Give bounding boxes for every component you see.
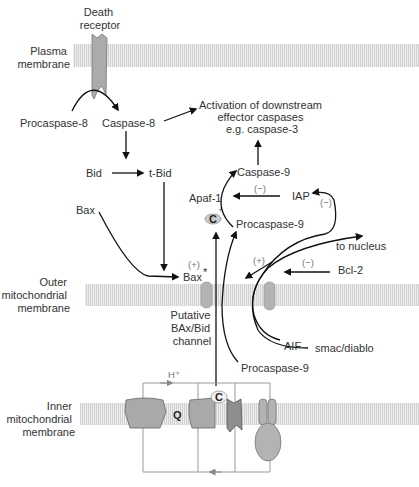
smac-to-iap-arrow: [252, 192, 335, 348]
caspase9-label: Caspase-9: [237, 166, 290, 178]
activation-label: Activation of downstream effector caspas…: [199, 99, 325, 135]
complex-iii: [189, 398, 215, 428]
procaspase8-label: Procaspase-8: [20, 117, 88, 129]
smac-diablo-label: smac/diablo: [315, 342, 374, 354]
tbid-label: t-Bid: [149, 167, 172, 179]
caspase8-to-activation-arrow: [164, 109, 196, 121]
channel-label: Putative BAx/Bid channel: [171, 309, 214, 347]
c-inner-label: C: [215, 391, 223, 403]
aif-label: AIF: [284, 340, 301, 352]
plasma-membrane-label: Plasma membrane: [17, 45, 70, 70]
apaf1-label: Apaf-1: [189, 192, 221, 204]
death-receptor-shape: [92, 34, 107, 99]
inner-membrane-label: Inner mitochondrial membrane: [7, 400, 75, 438]
bcl2-channel: [264, 282, 275, 310]
procaspase9-to-caspase9-arrow: [221, 171, 236, 227]
iap-loop-minus-sign: (−): [320, 197, 332, 208]
caspase8-label: Caspase-8: [102, 117, 155, 129]
h-plus-label: H⁺: [168, 369, 180, 380]
iap-apaf-minus-sign: (−): [254, 183, 266, 194]
bax-bid-channel: [201, 282, 212, 308]
outer-membrane-label: Outer mitochondrial membrane: [2, 276, 70, 314]
release-plus-sign: (+): [253, 255, 265, 266]
bid-label: Bid: [86, 167, 102, 179]
activated-bax-label: Bax: [183, 271, 202, 283]
death-receptor-label: Death receptor: [80, 6, 121, 31]
procaspase9-top-label: Procaspase-9: [236, 218, 304, 230]
bcl2-minus-sign: (−): [302, 257, 314, 268]
complex-i: [125, 398, 166, 428]
activation-star: *: [203, 266, 208, 278]
bax-to-activated-bax-arrow: [99, 212, 178, 277]
iap-label: IAP: [292, 190, 310, 202]
cytochrome-c-label: C: [209, 213, 217, 225]
bax-label: Bax: [76, 204, 95, 216]
bcl2-label: Bcl-2: [338, 264, 363, 276]
complex-iv: [227, 399, 242, 432]
plasma-membrane: [73, 44, 419, 67]
to-nucleus-label: to nucleus: [336, 240, 387, 252]
q-label: Q: [173, 409, 182, 421]
apoptosis-diagram: Plasma membrane Outer mitochondrial memb…: [0, 0, 419, 487]
bax-plus-sign: (+): [188, 259, 200, 270]
procaspase9-bottom-label: Procaspase-9: [241, 362, 309, 374]
